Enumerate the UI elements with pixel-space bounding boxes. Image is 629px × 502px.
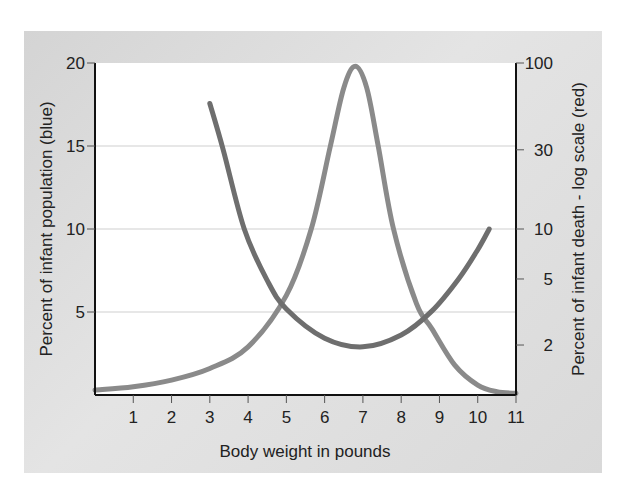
left-y-axis-title: Percent of infant population (blue) [37,101,56,356]
dual-axis-line-chart: 12345678910115101520251030100 Body weigh… [0,0,629,502]
right-y-tick-label: 100 [525,54,553,73]
left-y-tick-label: 5 [76,303,85,322]
x-tick-label: 9 [435,408,444,427]
x-tick-label: 6 [320,408,329,427]
x-tick-label: 4 [243,408,252,427]
left-y-tick-label: 20 [66,54,85,73]
right-y-tick-label: 2 [544,336,553,355]
x-tick-label: 2 [167,408,176,427]
right-y-tick-label: 10 [534,220,553,239]
x-tick-label: 5 [282,408,291,427]
right-y-tick-label: 30 [534,141,553,160]
left-y-tick-label: 10 [66,220,85,239]
x-tick-label: 11 [507,408,525,427]
x-tick-label: 8 [396,408,405,427]
right-y-tick-label: 5 [544,270,553,289]
x-tick-label: 3 [205,408,214,427]
left-y-tick-label: 15 [66,137,85,156]
x-tick-label: 10 [468,408,487,427]
x-axis-title: Body weight in pounds [219,442,390,461]
x-tick-label: 7 [358,408,367,427]
x-tick-label: 1 [129,408,138,427]
right-y-axis-title: Percent of infant death - log scale (red… [569,82,588,376]
